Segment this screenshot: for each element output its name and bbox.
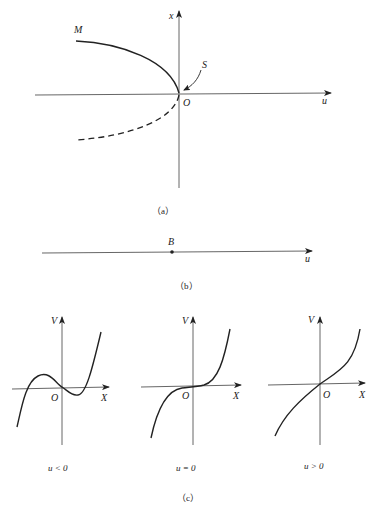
unstable-branch-curve (77, 95, 179, 140)
u-axis-label: u (322, 95, 327, 106)
x-axis-label: X (232, 390, 240, 401)
condition-label: u < 0 (48, 463, 68, 473)
point-b-dot (170, 250, 174, 254)
potential-curve (17, 332, 101, 427)
panel-u-positive: V X O u > 0 (268, 314, 366, 471)
figure-a: x u O M S （a） (35, 10, 331, 216)
x-axis (268, 383, 365, 385)
x-axis-label: X (358, 389, 366, 400)
saddle-node-pointer (184, 70, 201, 90)
origin-label: O (182, 390, 189, 401)
potential-curve (275, 329, 360, 436)
condition-label: u > 0 (304, 461, 324, 471)
origin-label: O (183, 97, 190, 108)
caption-b: （b） (175, 281, 198, 291)
figure-b: B u （b） (42, 236, 312, 291)
origin-label: O (323, 389, 330, 400)
v-axis-label: V (182, 315, 190, 326)
condition-label: u = 0 (176, 463, 196, 473)
point-b-label: B (168, 236, 174, 247)
bifurcation-diagram: x u O M S （a） B u （b） V X O u < 0 V (0, 0, 374, 508)
caption-a: （a） (152, 206, 174, 216)
v-axis-label: V (308, 314, 316, 325)
potential-curve (151, 329, 230, 438)
panel-u-negative: V X O u < 0 (12, 315, 109, 473)
stable-branch-curve (76, 41, 179, 93)
u-axis-line (42, 251, 312, 253)
point-s-label: S (202, 59, 207, 70)
x-axis-label: x (168, 10, 174, 21)
u-axis-horizontal (35, 93, 331, 95)
panel-u-zero: V X O u = 0 (141, 315, 241, 473)
v-axis-label: V (51, 315, 59, 326)
branch-m-label: M (73, 24, 83, 35)
caption-c: （c） (177, 493, 199, 503)
origin-label: O (51, 392, 58, 403)
x-axis-label: X (100, 392, 108, 403)
u-axis-label: u (305, 253, 310, 264)
figure-c: V X O u < 0 V X O u = 0 V X O u > 0 （c） (12, 314, 366, 503)
x-axis (12, 387, 109, 389)
